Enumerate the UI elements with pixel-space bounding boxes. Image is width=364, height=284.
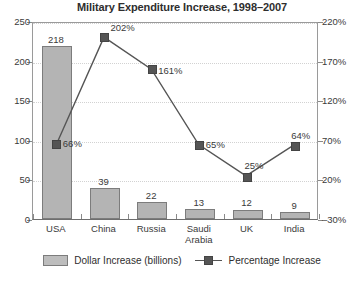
- category-label-line: Russia: [127, 223, 175, 234]
- category-label-line: Arabia: [175, 234, 223, 245]
- category-label-line: India: [270, 223, 318, 234]
- legend-label-percentage-increase: Percentage Increase: [228, 255, 320, 266]
- bar-value-label: 218: [36, 34, 76, 45]
- percentage-value-label: 202%: [111, 22, 135, 33]
- right-tick-label: 220%: [322, 16, 364, 27]
- right-tick-label: 70%: [322, 135, 364, 146]
- line-marker: [195, 141, 204, 150]
- x-tick-mark: [319, 214, 320, 219]
- left-tick-label: 250: [0, 16, 30, 27]
- right-tick-label: 170%: [322, 56, 364, 67]
- right-tick-label: 20%: [322, 174, 364, 185]
- category-label: SaudiArabia: [175, 223, 223, 245]
- right-tick-label: –30%: [322, 214, 364, 225]
- bar-value-label: 39: [84, 176, 124, 187]
- category-label-line: China: [80, 223, 128, 234]
- line-marker: [52, 140, 61, 149]
- bar-value-label: 9: [274, 200, 314, 211]
- plot-area: [32, 22, 318, 220]
- legend-label-dollar-increase: Dollar Increase (billions): [74, 255, 181, 266]
- line-marker: [243, 173, 252, 182]
- percentage-line-series: [33, 23, 317, 219]
- military-expenditure-chart: Military Expenditure Increase, 1998–2007…: [0, 0, 364, 284]
- category-label: India: [270, 223, 318, 234]
- bar-value-label: 13: [179, 197, 219, 208]
- left-tick-label: 200: [0, 56, 30, 67]
- chart-title: Military Expenditure Increase, 1998–2007: [0, 1, 364, 13]
- category-label: Russia: [127, 223, 175, 234]
- percentage-value-label: 64%: [291, 130, 310, 141]
- left-tick-label: 100: [0, 135, 30, 146]
- category-label: UK: [223, 223, 271, 234]
- chart-legend: Dollar Increase (billions) Percentage In…: [0, 255, 364, 266]
- right-tick-label: 120%: [322, 95, 364, 106]
- left-tick-label: 0: [0, 214, 30, 225]
- percentage-value-label: 161%: [158, 65, 182, 76]
- category-label-line: UK: [223, 223, 271, 234]
- bar-value-label: 22: [131, 190, 171, 201]
- legend-item-dollar-increase: Dollar Increase (billions): [43, 255, 181, 266]
- bar-value-label: 12: [227, 197, 267, 208]
- percentage-value-label: 25%: [245, 160, 264, 171]
- line-marker-swatch-icon: [195, 255, 222, 266]
- line-marker: [148, 65, 157, 74]
- percentage-value-label: 66%: [63, 138, 82, 149]
- line-marker: [100, 33, 109, 42]
- line-marker: [291, 142, 300, 151]
- left-tick-label: 50: [0, 174, 30, 185]
- category-label-line: USA: [32, 223, 80, 234]
- category-label: China: [80, 223, 128, 234]
- percentage-line: [57, 37, 294, 176]
- category-label-line: Saudi: [175, 223, 223, 234]
- left-tick-label: 150: [0, 95, 30, 106]
- percentage-value-label: 65%: [206, 139, 225, 150]
- cut-off-source-text: [0, 277, 364, 284]
- bar-swatch-icon: [43, 255, 68, 266]
- category-label: USA: [32, 223, 80, 234]
- legend-item-percentage-increase: Percentage Increase: [195, 255, 320, 266]
